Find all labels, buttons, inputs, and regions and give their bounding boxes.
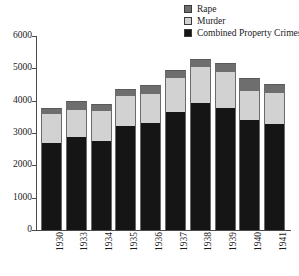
bar-segment-murder [41,114,62,143]
bar-1938 [190,59,211,230]
bar-1936 [140,85,161,230]
bar-segment-murder [190,67,211,104]
bar-segment-murder [140,94,161,123]
x-axis-tick-label: 1941 [278,232,288,272]
bar-segment-murder [66,110,87,137]
legend-label-murder: Murder [197,16,226,26]
bar-segment-murder [91,111,112,142]
x-axis-tick-label: 1935 [129,232,139,272]
legend-swatch-rape [184,5,192,13]
bar-segment-murder [215,72,236,108]
legend-label-rape: Rape [197,4,217,14]
bar-segment-murder [165,78,186,112]
x-axis-tick-label: 1934 [104,232,114,272]
chart-legend: Rape Murder Combined Property Crimes [184,3,299,39]
stacked-bar-chart: Rape Murder Combined Property Crimes 600… [0,0,299,276]
y-axis-tick-label: 6000 [13,31,32,41]
bar-segment-rape [215,63,236,72]
x-axis-tick-label: 1933 [79,232,89,272]
x-axis-tick-label: 1937 [179,232,189,272]
y-axis-tick-label: 2000 [13,160,32,170]
legend-item-rape: Rape [184,3,299,14]
bar-segment-murder [239,91,260,120]
bar-segment-rape [190,59,211,67]
bar-segment-combined-property-crimes [115,126,136,230]
x-axis-tick-label: 1940 [253,232,263,272]
y-axis-tick-label: 3000 [13,128,32,138]
plot-area [36,36,291,231]
bar-segment-murder [115,96,136,127]
bar-segment-rape [165,70,186,77]
bar-segment-rape [239,78,260,91]
x-axis-tick-label: 1936 [154,232,164,272]
x-axis-tick-label: 1930 [55,232,65,272]
bar-segment-murder [264,93,285,124]
y-axis-tick-label: 5000 [13,63,32,73]
bar-segment-combined-property-crimes [239,120,260,230]
legend-item-murder: Murder [184,15,299,26]
bar-1940 [239,78,260,230]
y-axis-tick-label: 1000 [13,193,32,203]
bar-segment-combined-property-crimes [140,123,161,230]
y-axis: 6000500040003000200010000 [0,0,36,276]
bar-1930 [41,108,62,230]
bar-1939 [215,63,236,230]
x-axis: 1930193319341935193619371938193919401941 [36,232,290,276]
bars-container [37,36,291,230]
bar-segment-rape [264,84,285,93]
y-axis-tick-label: 4000 [13,96,32,106]
bar-segment-combined-property-crimes [66,137,87,230]
bar-1941 [264,84,285,230]
bar-segment-rape [91,104,112,111]
bar-1934 [91,104,112,230]
bar-segment-rape [140,85,161,94]
bar-1937 [165,70,186,230]
bar-segment-combined-property-crimes [41,143,62,230]
bar-segment-combined-property-crimes [264,124,285,230]
bar-segment-combined-property-crimes [91,141,112,230]
bar-segment-combined-property-crimes [215,108,236,230]
bar-1935 [115,89,136,230]
x-axis-tick-label: 1939 [228,232,238,272]
bar-segment-combined-property-crimes [165,112,186,230]
bar-segment-rape [66,101,87,110]
bar-1933 [66,101,87,230]
legend-swatch-murder [184,17,192,25]
bar-segment-combined-property-crimes [190,103,211,230]
x-axis-tick-label: 1938 [203,232,213,272]
